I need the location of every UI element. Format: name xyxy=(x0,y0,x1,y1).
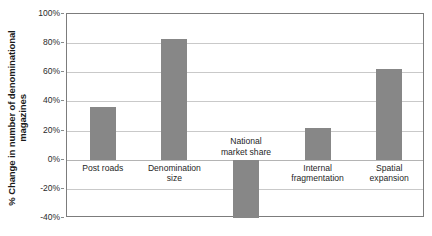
x-axis-category-label: Post roads xyxy=(67,163,139,173)
x-axis-category-label: Spatial expansion xyxy=(353,163,425,183)
y-axis-tick-label: 40% xyxy=(43,96,60,105)
y-axis-tick-label: -20% xyxy=(40,183,60,192)
y-axis-tick-mark xyxy=(61,188,64,189)
y-axis-tick-label: 0% xyxy=(48,154,60,163)
y-axis-tick-mark xyxy=(61,71,64,72)
y-axis-tick-label: 60% xyxy=(43,67,60,76)
y-axis-tick-mark xyxy=(61,217,64,218)
y-axis-tick-label: -40% xyxy=(40,213,60,222)
bar-group: Denomination size xyxy=(139,14,211,216)
bar-group: Post roads xyxy=(67,14,139,216)
bar[interactable] xyxy=(90,107,116,159)
bar[interactable] xyxy=(376,69,402,159)
y-axis-tick-mark xyxy=(61,100,64,101)
bar[interactable] xyxy=(305,128,331,160)
chart-figure: % Change in number of denominational mag… xyxy=(0,0,432,236)
y-axis-tick-mark xyxy=(61,130,64,131)
y-axis-tick-mark xyxy=(61,42,64,43)
bar-group: National market share xyxy=(210,14,282,216)
bar[interactable] xyxy=(161,39,187,160)
y-axis-tick-label: 100% xyxy=(38,9,60,18)
y-axis-tick-label: 20% xyxy=(43,125,60,134)
plot-area: Post roadsDenomination sizeNational mark… xyxy=(66,13,424,217)
x-axis-category-label: Internal fragmentation xyxy=(282,163,354,183)
y-axis-tick-mark xyxy=(61,13,64,14)
bar-group: Internal fragmentation xyxy=(282,14,354,216)
bars-layer: Post roadsDenomination sizeNational mark… xyxy=(67,14,423,216)
x-axis-category-label: National market share xyxy=(210,136,282,156)
bar-group: Spatial expansion xyxy=(353,14,425,216)
x-axis-category-label: Denomination size xyxy=(139,163,211,183)
y-axis-tick-label: 80% xyxy=(43,38,60,47)
y-axis-tick-labels: 100%80%60%40%20%0%-20%-40% xyxy=(30,0,64,236)
y-axis-title-text: % Change in number of denominational mag… xyxy=(6,8,29,228)
bar[interactable] xyxy=(233,160,259,218)
y-axis-title: % Change in number of denominational mag… xyxy=(0,0,34,236)
y-axis-tick-mark xyxy=(61,159,64,160)
